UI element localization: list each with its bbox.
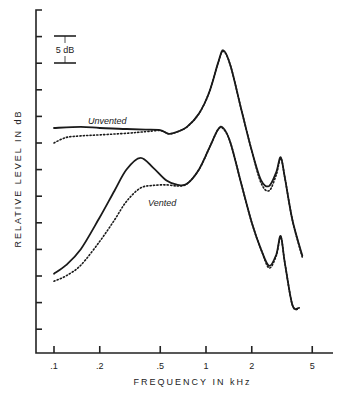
x-tick-label: .1 [50, 361, 58, 371]
curves [54, 50, 302, 309]
vented-solid-curve [54, 127, 299, 310]
x-tick-label: 5 [310, 361, 315, 371]
vented-label: Vented [148, 198, 177, 208]
x-axis-title: FREQUENCY IN kHz [134, 377, 252, 387]
unvented-solid-curve [54, 50, 302, 255]
x-tick-label: .2 [96, 361, 104, 371]
scale-bar-label: 5 dB [56, 45, 75, 55]
unvented-dotted-curve [54, 51, 302, 257]
frequency-response-chart: .1.2.5125FREQUENCY IN kHzRELATIVE LEVEL … [0, 0, 346, 395]
vented-dotted-curve [54, 127, 299, 309]
axis-lines [36, 10, 333, 353]
scale-bar: 5 dB [54, 36, 76, 63]
x-tick-label: .5 [156, 361, 164, 371]
x-tick-label: 1 [203, 361, 208, 371]
x-tick-label: 2 [249, 361, 254, 371]
y-axis-title: RELATIVE LEVEL IN dB [13, 109, 23, 247]
unvented-label: Unvented [88, 116, 128, 126]
